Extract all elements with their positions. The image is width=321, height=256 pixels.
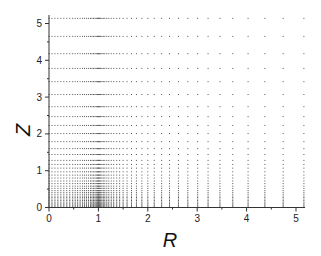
mesh-point xyxy=(169,183,170,184)
mesh-point xyxy=(75,164,76,165)
mesh-point xyxy=(123,199,124,200)
mesh-point xyxy=(63,81,64,82)
mesh-point xyxy=(82,190,83,191)
mesh-point xyxy=(283,18,284,19)
mesh-point xyxy=(141,197,142,198)
mesh-point xyxy=(147,94,148,95)
mesh-point xyxy=(127,148,128,149)
y-ticks: 012345 xyxy=(36,18,49,213)
mesh-point xyxy=(219,148,220,149)
mesh-point xyxy=(178,36,179,37)
mesh-point xyxy=(248,116,249,117)
mesh-point xyxy=(136,205,137,206)
mesh-point xyxy=(116,201,117,202)
mesh-point xyxy=(91,183,92,184)
mesh-point xyxy=(116,168,117,169)
mesh-point xyxy=(66,197,67,198)
mesh-point xyxy=(178,148,179,149)
mesh-point xyxy=(100,106,101,107)
mesh-point xyxy=(154,94,155,95)
mesh-point xyxy=(197,192,198,193)
mesh-point xyxy=(103,148,104,149)
mesh-point xyxy=(219,194,220,195)
mesh-point xyxy=(131,106,132,107)
mesh-point xyxy=(187,133,188,134)
mesh-point xyxy=(72,116,73,117)
mesh-point xyxy=(88,183,89,184)
mesh-point xyxy=(116,94,117,95)
mesh-point xyxy=(283,133,284,134)
mesh-point xyxy=(197,53,198,54)
mesh-point xyxy=(283,178,284,179)
mesh-point xyxy=(80,164,81,165)
mesh-point xyxy=(187,205,188,206)
mesh-point xyxy=(91,81,92,82)
mesh-point xyxy=(96,200,97,201)
mesh-point xyxy=(60,192,61,193)
mesh-point xyxy=(161,164,162,165)
mesh-point xyxy=(116,190,117,191)
mesh-point xyxy=(141,204,142,205)
mesh-point xyxy=(131,188,132,189)
mesh-point xyxy=(111,194,112,195)
mesh-point xyxy=(91,94,92,95)
mesh-point xyxy=(90,125,91,126)
mesh-point xyxy=(94,148,95,149)
mesh-point xyxy=(51,204,52,205)
mesh-point xyxy=(264,148,265,149)
mesh-point xyxy=(99,18,100,19)
mesh-point xyxy=(123,133,124,134)
mesh-point xyxy=(219,175,220,176)
mesh-point xyxy=(60,175,61,176)
mesh-point xyxy=(136,133,137,134)
mesh-point xyxy=(84,160,85,161)
mesh-point xyxy=(264,164,265,165)
mesh-point xyxy=(111,205,112,206)
mesh-point xyxy=(303,192,304,193)
mesh-point xyxy=(88,205,89,206)
mesh-point xyxy=(63,200,64,201)
mesh-point xyxy=(66,199,67,200)
mesh-point xyxy=(123,53,124,54)
mesh-point xyxy=(103,168,104,169)
mesh-point xyxy=(147,203,148,204)
mesh-point xyxy=(108,206,109,207)
mesh-point xyxy=(264,188,265,189)
mesh-point xyxy=(169,201,170,202)
mesh-point xyxy=(127,203,128,204)
mesh-point xyxy=(88,194,89,195)
mesh-point xyxy=(60,148,61,149)
mesh-point xyxy=(232,194,233,195)
mesh-point xyxy=(94,196,95,197)
mesh-point xyxy=(113,196,114,197)
mesh-point xyxy=(127,204,128,205)
mesh-point xyxy=(93,94,94,95)
mesh-point xyxy=(108,200,109,201)
mesh-point xyxy=(303,188,304,189)
mesh-point xyxy=(141,36,142,37)
y-tick-label: 5 xyxy=(36,18,42,29)
mesh-point xyxy=(154,116,155,117)
mesh-point xyxy=(113,141,114,142)
mesh-point xyxy=(72,178,73,179)
mesh-point xyxy=(147,53,148,54)
mesh-point xyxy=(106,94,107,95)
mesh-point xyxy=(208,154,209,155)
mesh-point xyxy=(219,18,220,19)
mesh-point xyxy=(141,196,142,197)
mesh-point xyxy=(147,18,148,19)
mesh-point xyxy=(111,148,112,149)
mesh-point xyxy=(104,133,105,134)
mesh-point xyxy=(57,188,58,189)
mesh-point xyxy=(131,68,132,69)
mesh-point xyxy=(80,154,81,155)
mesh-point xyxy=(147,125,148,126)
mesh-point xyxy=(154,18,155,19)
mesh-point xyxy=(208,196,209,197)
mesh-point xyxy=(283,197,284,198)
mesh-point xyxy=(108,18,109,19)
mesh-point xyxy=(104,125,105,126)
mesh-point xyxy=(72,203,73,204)
mesh-point xyxy=(100,200,101,201)
mesh-point xyxy=(187,199,188,200)
